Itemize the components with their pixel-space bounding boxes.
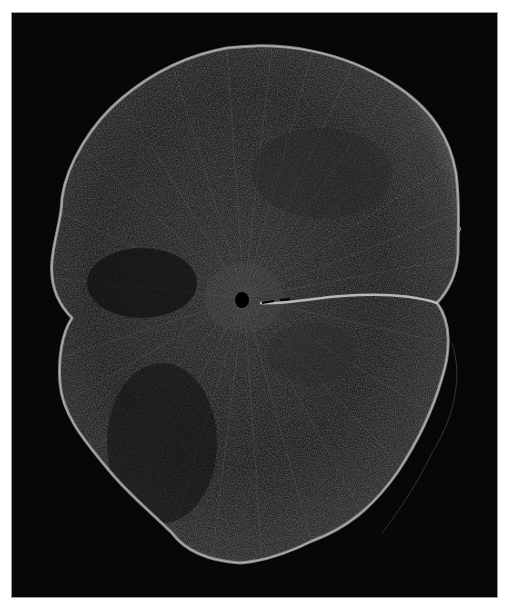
tissue-section-image (12, 13, 498, 598)
central-canal (235, 292, 249, 308)
micrograph-frame (11, 12, 498, 598)
